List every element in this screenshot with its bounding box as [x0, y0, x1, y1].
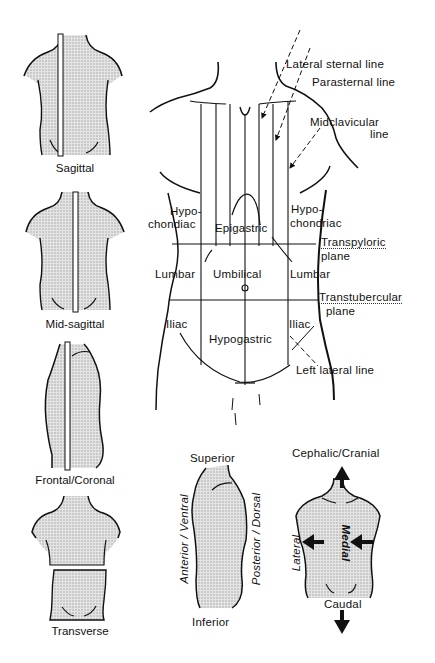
label-umbilical: Umbilical: [213, 268, 261, 280]
label-left-lateral-line: Left lateral line: [296, 364, 374, 376]
caption-mid-sagittal: Mid-sagittal: [35, 318, 115, 330]
label-midclavicular-line-2: line: [370, 128, 389, 140]
label-hypochondriac-left-1: Hypo-: [170, 205, 202, 217]
label-lumbar-right: Lumbar: [290, 268, 330, 280]
side-view-figure: [192, 465, 247, 608]
label-parasternal-line: Parasternal line: [312, 76, 395, 88]
label-lateral: Lateral: [290, 528, 302, 578]
mid-sagittal-figure: [26, 192, 124, 312]
caption-sagittal: Sagittal: [45, 162, 105, 174]
caption-frontal-coronal: Frontal/Coronal: [20, 474, 130, 486]
label-transpyloric-plane-1: Transpyloric: [321, 236, 386, 248]
label-cephalic-cranial: Cephalic/Cranial: [292, 447, 380, 459]
label-hypochondriac-left-2: chondiac: [148, 218, 196, 230]
anatomy-illustration: [0, 0, 435, 663]
label-transtubercular-plane-1: Transtubercular: [319, 291, 402, 303]
label-midclavicular-line-1: Midclavicular: [310, 116, 379, 128]
transverse-figure: [32, 496, 120, 620]
caption-transverse: Transverse: [45, 625, 115, 637]
label-posterior-dorsal: Posterior / Dorsal: [250, 484, 262, 594]
label-lumbar-left: Lumbar: [155, 268, 195, 280]
sagittal-figure: [24, 34, 122, 156]
label-transpyloric-plane-2: plane: [321, 250, 350, 262]
label-iliac-left: Iliac: [166, 318, 187, 330]
label-medial: Medial: [340, 518, 352, 568]
label-transtubercular-plane-2: plane: [326, 305, 355, 317]
label-anterior-ventral: Anterior / Ventral: [178, 484, 190, 594]
label-superior: Superior: [190, 452, 235, 464]
label-lateral-sternal-line: Lateral sternal line: [286, 58, 384, 70]
caudal-arrow-icon: [334, 610, 350, 634]
label-caudal: Caudal: [324, 598, 362, 610]
label-epigastric: Epigastric: [215, 222, 268, 234]
label-iliac-right: Iliac: [289, 318, 310, 330]
label-inferior: Inferior: [192, 616, 229, 628]
label-hypogastric: Hypogastric: [209, 333, 272, 345]
label-hypochondriac-right-1: Hypo-: [291, 203, 323, 215]
frontal-coronal-figure: [45, 342, 103, 470]
label-hypochondriac-right-2: chondriac: [290, 217, 342, 229]
